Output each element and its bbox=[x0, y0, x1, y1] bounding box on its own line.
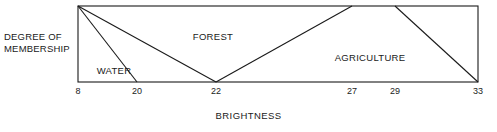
agriculture-rising-edge bbox=[216, 6, 352, 82]
x-tick-label-20: 20 bbox=[132, 86, 142, 96]
x-tick-label-22: 22 bbox=[211, 86, 221, 96]
region-label-agriculture: AGRICULTURE bbox=[335, 52, 406, 63]
region-label-water: WATER bbox=[97, 65, 132, 76]
x-axis-caption: BRIGHTNESS bbox=[0, 110, 497, 121]
fuzzy-membership-figure: DEGREE OF MEMBERSHIP 8 20 22 27 29 33 WA… bbox=[0, 0, 497, 132]
x-tick-label-33: 33 bbox=[473, 86, 483, 96]
x-tick-label-8: 8 bbox=[75, 86, 80, 96]
x-tick-label-27: 27 bbox=[347, 86, 357, 96]
agriculture-falling-edge bbox=[395, 6, 478, 82]
x-tick-label-29: 29 bbox=[390, 86, 400, 96]
region-label-forest: FOREST bbox=[193, 31, 233, 42]
plot-frame bbox=[78, 6, 478, 82]
